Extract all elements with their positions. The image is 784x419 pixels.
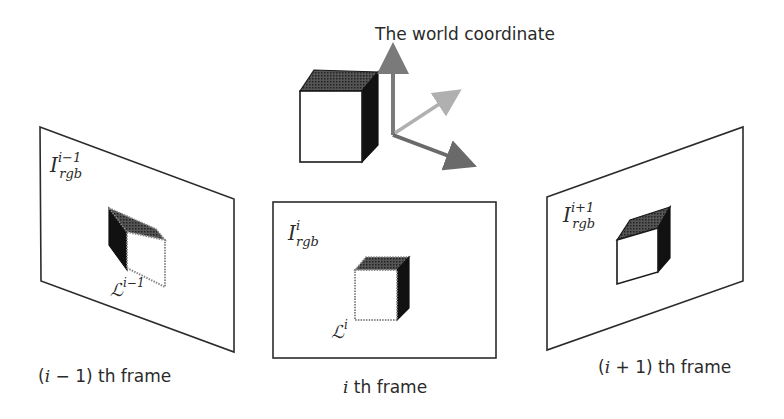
frame-next: Ii+1rgb <box>547 127 743 350</box>
caption-prev: (i − 1) th frame <box>38 366 171 386</box>
world-cube-icon <box>300 70 378 162</box>
diagram-canvas: The world coordinate Ii−1rgb ℒi−1 Iirgb <box>0 0 784 419</box>
caption-current: i th frame <box>343 377 427 397</box>
caption-next: (i + 1) th frame <box>598 357 731 377</box>
world-coordinate-title: The world coordinate <box>374 24 555 44</box>
image-label-next: Ii+1rgb <box>562 200 595 231</box>
frame-prev: Ii−1rgb ℒi−1 <box>40 127 234 352</box>
image-label-prev: Ii−1rgb <box>49 150 82 181</box>
cube-current-icon <box>355 257 409 320</box>
world-axes-icon <box>393 58 462 161</box>
frame-current: Iirgb ℒi <box>273 202 496 358</box>
